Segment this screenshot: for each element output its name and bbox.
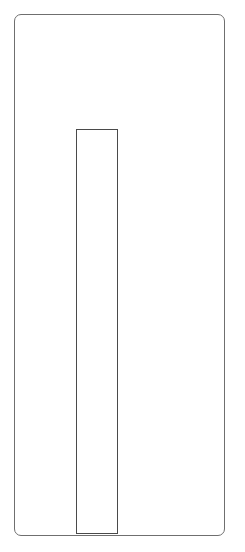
spectrum-ladder bbox=[76, 129, 118, 534]
spectrum-figure bbox=[14, 14, 225, 536]
